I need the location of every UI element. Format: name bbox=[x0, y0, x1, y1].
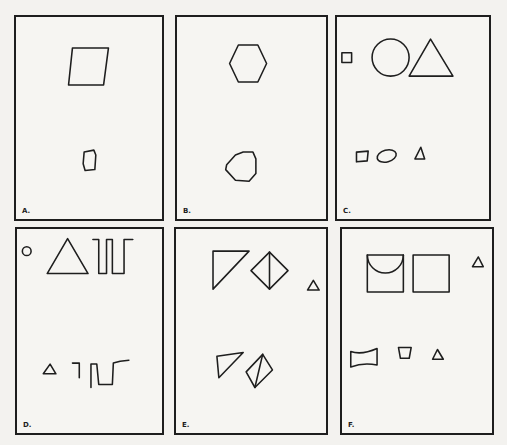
semicircle-arc bbox=[367, 255, 403, 273]
panel-d: D. bbox=[15, 227, 164, 435]
square-shape bbox=[413, 255, 449, 292]
small-circle-shape bbox=[22, 247, 31, 256]
panel-f-drawing bbox=[342, 229, 492, 433]
small-triangle-shape bbox=[43, 364, 56, 374]
small-triangle-shape bbox=[415, 147, 425, 159]
square-wave-glyph bbox=[93, 240, 133, 274]
triangle-shape bbox=[47, 239, 88, 274]
panel-label: B. bbox=[183, 207, 191, 215]
panel-e-drawing bbox=[176, 229, 326, 433]
panel-a: A. bbox=[14, 15, 164, 221]
panel-e: E. bbox=[174, 227, 328, 435]
distorted-rectangle-shape bbox=[351, 349, 377, 368]
panel-d-drawing bbox=[17, 229, 162, 433]
panel-c: C. bbox=[335, 15, 491, 221]
small-quadrilateral-shape bbox=[356, 151, 368, 162]
panel-c-drawing bbox=[337, 17, 489, 219]
panel-label: F. bbox=[348, 421, 354, 429]
small-triangle-shape bbox=[433, 350, 444, 360]
triangle-shape bbox=[409, 39, 453, 76]
distorted-polygon-shape bbox=[226, 152, 256, 181]
panel-label: C. bbox=[343, 207, 351, 215]
panel-label: A. bbox=[22, 207, 30, 215]
small-quadrilateral-shape bbox=[83, 150, 96, 170]
small-square-shape bbox=[342, 53, 352, 63]
panel-a-drawing bbox=[16, 17, 162, 219]
panel-label: D. bbox=[23, 421, 31, 429]
small-trapezoid-shape bbox=[398, 348, 411, 359]
panel-b: B. bbox=[175, 15, 328, 221]
right-triangle-shape bbox=[213, 251, 249, 289]
distorted-square-wave-glyph bbox=[72, 360, 128, 387]
panel-b-drawing bbox=[177, 17, 326, 219]
small-triangle-shape bbox=[307, 280, 319, 290]
small-triangle-shape bbox=[473, 257, 484, 267]
distorted-triangle-shape bbox=[217, 352, 243, 377]
hexagon-shape bbox=[230, 45, 267, 82]
panel-label: E. bbox=[182, 421, 189, 429]
parallelogram-shape bbox=[69, 48, 109, 85]
panel-f: F. bbox=[340, 227, 494, 435]
circle-shape bbox=[372, 39, 409, 76]
small-ellipse-shape bbox=[376, 148, 398, 164]
